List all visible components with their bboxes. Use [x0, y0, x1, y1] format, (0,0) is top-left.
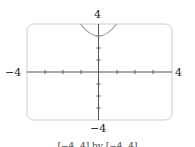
y-min-label: −4 — [90, 123, 106, 134]
window-caption: [−4, 4] by [−4, 4] — [0, 141, 195, 147]
y-max-label: 4 — [94, 9, 101, 20]
x-axis — [27, 70, 172, 74]
x-min-label: −4 — [5, 67, 21, 78]
x-max-label: 4 — [175, 67, 182, 78]
